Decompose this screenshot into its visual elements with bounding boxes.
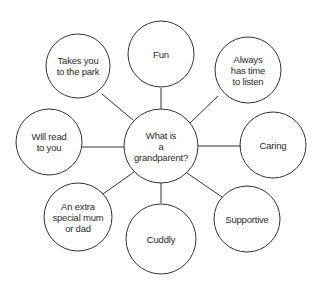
center-node: What isagrandparent?	[124, 109, 198, 183]
node-extra-special: An extraspecial mumor dad	[44, 183, 112, 251]
node-always-has-time: Alwayshas timeto listen	[215, 37, 281, 103]
node-supportive: Supportive	[214, 186, 280, 252]
node-cuddly: Cuddly	[126, 204, 196, 274]
node-caring: Caring	[240, 112, 306, 178]
node-fun: Fun	[128, 21, 194, 87]
node-will-read: Will readto you	[16, 109, 82, 175]
node-takes-to-park: Takes youto the park	[46, 34, 110, 98]
